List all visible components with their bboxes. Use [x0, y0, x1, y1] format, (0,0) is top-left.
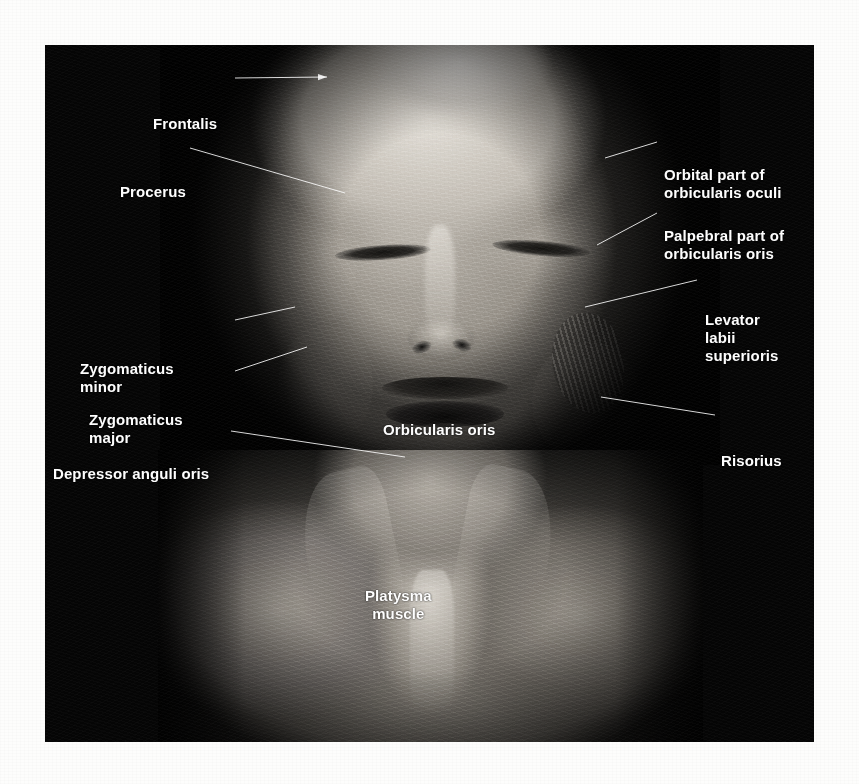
page-canvas: FrontalisProcerusOrbital part of orbicul…: [0, 0, 859, 784]
label-orbital-part-orbicularis-oculi: Orbital part of orbicularis oculi: [664, 166, 782, 202]
head-photograph: [160, 45, 720, 465]
label-frontalis: Frontalis: [153, 115, 217, 133]
dissection-photo-plate: FrontalisProcerusOrbital part of orbicul…: [45, 45, 814, 742]
label-depressor-anguli-oris: Depressor anguli oris: [53, 465, 209, 483]
label-zygomaticus-major: Zygomaticus major: [89, 411, 183, 447]
label-zygomaticus-minor: Zygomaticus minor: [80, 360, 174, 396]
head-photo-vignette: [160, 45, 720, 465]
label-risorius: Risorius: [721, 452, 782, 470]
label-orbicularis-oris: Orbicularis oris: [383, 421, 495, 439]
label-platysma-muscle: Platysma muscle: [365, 587, 432, 623]
label-procerus: Procerus: [120, 183, 186, 201]
label-levator-labii-superioris: Levator labii superioris: [705, 311, 779, 365]
label-palpebral-part-orbicularis-oris: Palpebral part of orbicularis oris: [664, 227, 784, 263]
